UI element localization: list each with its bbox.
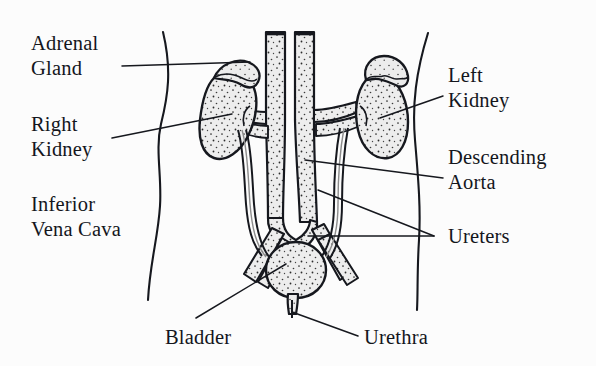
label-bladder: Bladder: [165, 325, 231, 350]
leader-descending-aorta: [305, 160, 443, 178]
leader-bladder: [196, 264, 286, 318]
leader-ureter-left: [318, 190, 434, 236]
label-urethra: Urethra: [364, 325, 428, 350]
label-ureters: Ureters: [448, 224, 510, 249]
label-adrenal-gland: Adrenal Gland: [31, 31, 98, 80]
leader-urethra: [292, 312, 358, 336]
descending-aorta: [295, 32, 317, 222]
label-descending-aorta: Descending Aorta: [448, 145, 547, 194]
label-left-kidney: Left Kidney: [448, 63, 510, 112]
label-right-kidney: Right Kidney: [31, 112, 93, 161]
body-outline-right: [414, 33, 428, 310]
inferior-vena-cava: [266, 32, 285, 218]
label-inferior-vena-cava: Inferior Vena Cava: [31, 192, 121, 241]
body-outline-left: [148, 32, 168, 300]
anatomy-diagram-page: Adrenal Gland Right Kidney Inferior Vena…: [0, 0, 596, 366]
